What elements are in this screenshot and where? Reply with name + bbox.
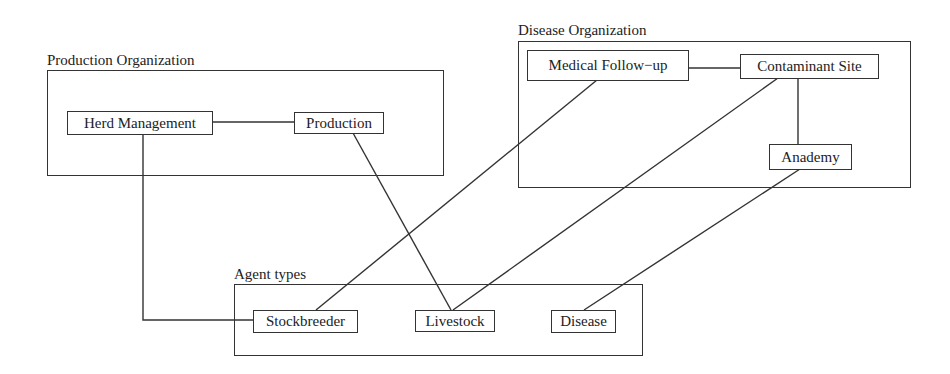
node-stockbreeder: Stockbreeder [253,310,358,333]
node-medical-follow-up: Medical Follow−up [527,50,689,81]
group-label-production: Production Organization [47,52,195,68]
organization-diagram: Production Organization Disease Organiza… [0,0,950,374]
node-livestock: Livestock [415,310,495,332]
node-contaminant-site: Contaminant Site [740,54,879,79]
node-disease: Disease [551,310,616,333]
node-production: Production [294,112,384,134]
node-herd-management: Herd Management [67,111,213,135]
group-label-agents: Agent types [234,266,306,282]
group-label-disease: Disease Organization [518,22,646,38]
node-anademy: Anademy [769,144,852,170]
